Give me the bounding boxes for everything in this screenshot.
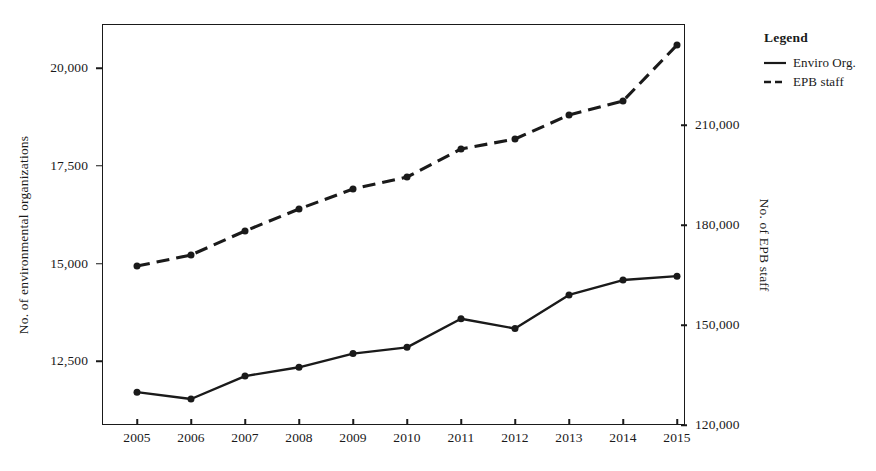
x-axis-tick-label: 2008 [285,430,312,446]
data-point-marker [620,277,627,284]
legend-item-label: EPB staff [793,74,844,90]
legend-item: Enviro Org. [764,53,872,72]
data-point-marker [404,344,411,351]
y-axis-right-tick-label: 150,000 [695,317,740,333]
x-axis-tick-label: 2009 [339,430,366,446]
y-axis-left-tick-mark [96,67,102,69]
series-epb-staff [134,42,681,270]
data-point-marker [350,186,357,193]
data-point-marker [296,364,303,371]
data-point-marker [134,389,141,396]
data-point-marker [512,325,519,332]
y-axis-right-tick-mark [681,424,687,426]
data-point-marker [674,42,681,49]
y-axis-right-tick-mark [681,224,687,226]
data-point-marker [134,263,141,270]
y-axis-right-title: No. of EPB staff [756,199,772,292]
legend-title: Legend [764,30,872,46]
data-point-marker [458,146,465,153]
x-axis-tick-mark [406,419,408,425]
y-axis-right-tick-mark [681,324,687,326]
x-axis-tick-mark [244,419,246,425]
data-point-marker [242,228,249,235]
y-axis-right-tick-label: 120,000 [695,417,740,433]
x-axis-tick-mark [676,419,678,425]
y-axis-left-tick-label: 17,500 [50,158,88,174]
y-axis-left-tick-mark [96,263,102,265]
x-axis-tick-mark [460,419,462,425]
legend-item: EPB staff [764,72,872,91]
legend-line-swatch [764,57,786,69]
y-axis-left-tick-mark [96,361,102,363]
x-axis-tick-label: 2010 [393,430,420,446]
data-point-marker [512,136,519,143]
x-axis-tick-label: 2007 [231,430,258,446]
x-axis-tick-label: 2013 [555,430,582,446]
data-point-marker [620,98,627,105]
x-axis-tick-mark [298,419,300,425]
series-enviro-org [134,273,681,403]
x-axis-tick-mark [352,419,354,425]
x-axis-tick-mark [568,419,570,425]
x-axis-tick-mark [136,419,138,425]
data-point-marker [188,395,195,402]
y-axis-right-tick-label: 210,000 [695,117,740,133]
legend-item-label: Enviro Org. [793,55,856,71]
data-point-marker [350,350,357,357]
y-axis-right-tick-mark [681,124,687,126]
y-axis-left-tick-label: 12,500 [50,353,88,369]
y-axis-left-tick-label: 20,000 [50,60,88,76]
data-point-marker [296,206,303,213]
data-point-marker [242,373,249,380]
data-point-marker [674,273,681,280]
legend-line-swatch [764,76,786,88]
series-line [137,276,677,399]
x-axis-tick-label: 2012 [501,430,528,446]
x-axis-tick-mark [190,419,192,425]
data-point-marker [566,112,573,119]
data-point-marker [566,291,573,298]
x-axis-tick-label: 2014 [609,430,636,446]
x-axis-tick-mark [622,419,624,425]
y-axis-left-title: No. of environmental organizations [16,136,32,335]
y-axis-left-tick-label: 15,000 [50,256,88,272]
line-chart-figure: 12,50015,00017,50020,000 No. of environm… [0,0,876,471]
legend: Legend Enviro Org.EPB staff [764,30,872,91]
x-axis-tick-label: 2015 [663,430,690,446]
y-axis-right-tick-label: 180,000 [695,217,740,233]
x-axis-tick-label: 2005 [123,430,150,446]
data-point-marker [188,252,195,259]
legend-entries: Enviro Org.EPB staff [764,53,872,91]
y-axis-left-tick-mark [96,165,102,167]
data-point-marker [458,315,465,322]
series-layer [102,24,685,425]
series-line [137,45,677,266]
x-axis-tick-label: 2011 [448,430,475,446]
x-axis-tick-label: 2006 [177,430,204,446]
data-point-marker [404,174,411,181]
x-axis-tick-mark [514,419,516,425]
